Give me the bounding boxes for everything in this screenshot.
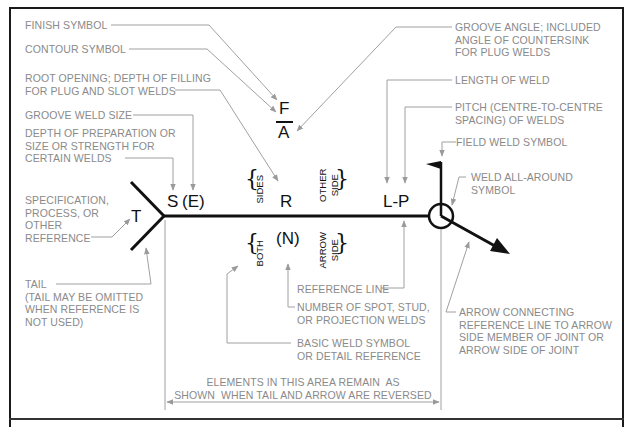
label-contour-symbol: CONTOUR SYMBOL	[25, 43, 126, 56]
other-side-label-1: OTHER	[318, 163, 329, 207]
label-pitch: PITCH (CENTRE-TO-CENTRE SPACING) OF WELD…	[455, 101, 603, 126]
label-tail: TAIL (TAIL MAY BE OMITTED WHEN REFERENCE…	[25, 278, 143, 328]
label-weld-all-around: WELD ALL-AROUND SYMBOL	[471, 171, 573, 196]
brace-right-top: }	[335, 168, 349, 190]
arrow-side-label-1: ARROW	[318, 228, 329, 272]
number-symbol: (N)	[276, 230, 300, 248]
root-symbol: R	[280, 193, 292, 211]
finish-symbol: F	[279, 100, 289, 118]
both-label: BOTH	[255, 233, 266, 273]
brace-right-bottom: }	[335, 232, 349, 254]
label-reference-line: REFERENCE LINE	[297, 283, 389, 296]
arrow-icon	[441, 216, 510, 254]
length-pitch-symbol: L-P	[383, 193, 409, 211]
label-finish-symbol: FINISH SYMBOL	[25, 19, 107, 32]
label-number-of-welds: NUMBER OF SPOT, STUD, OR PROJECTION WELD…	[297, 301, 430, 326]
label-arrow-connecting: ARROW CONNECTING REFERENCE LINE TO ARROW…	[459, 306, 612, 356]
label-elements-area: ELEMENTS IN THIS AREA REMAIN AS SHOWN WH…	[165, 376, 441, 401]
label-length-of-weld: LENGTH OF WELD	[455, 74, 550, 87]
label-root-opening: ROOT OPENING; DEPTH OF FILLING FOR PLUG …	[25, 72, 211, 97]
sides-label: SIDES	[255, 169, 266, 209]
label-specification: SPECIFICATION, PROCESS, OR OTHER REFEREN…	[25, 194, 109, 244]
label-groove-angle: GROOVE ANGLE; INCLUDED ANGLE OF COUNTERS…	[455, 21, 601, 59]
groove-angle-symbol: A	[278, 124, 289, 142]
label-basic-weld-symbol: BASIC WELD SYMBOL OR DETAIL REFERENCE	[297, 337, 421, 362]
groove-size-symbol: (E)	[182, 193, 205, 211]
label-field-weld: FIELD WELD SYMBOL	[456, 136, 567, 149]
label-groove-weld-size: GROOVE WELD SIZE	[25, 109, 132, 122]
tail-reference-symbol: T	[131, 208, 141, 226]
label-depth-of-preparation: DEPTH OF PREPARATION OR SIZE OR STRENGTH…	[25, 127, 176, 165]
depth-symbol: S	[167, 193, 178, 211]
